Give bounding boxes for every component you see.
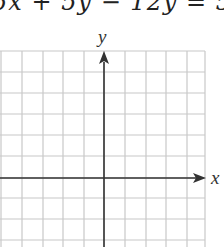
grid-lines (0, 51, 205, 247)
y-axis-label: y (96, 26, 107, 47)
coordinate-grid: x y (0, 0, 224, 247)
y-axis (99, 51, 109, 247)
x-axis-label: x (210, 167, 220, 188)
x-axis (0, 173, 206, 183)
